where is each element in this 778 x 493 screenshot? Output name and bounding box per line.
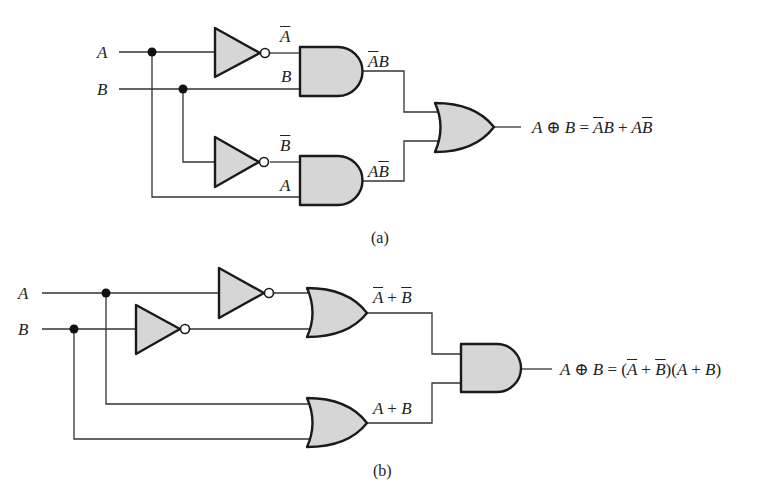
label-and2-output: AB xyxy=(368,163,389,180)
label-and1-b-input: B xyxy=(281,68,291,85)
inverter-bubble-b-b xyxy=(181,325,190,334)
inverter-bubble-a xyxy=(261,49,270,58)
or-gate-b-1 xyxy=(307,288,367,337)
wire-and1-out xyxy=(363,71,440,112)
output-expression-a: A ⊕ B = AB + AB xyxy=(532,119,652,136)
or-gate-a xyxy=(435,103,494,152)
and-gate-b xyxy=(461,344,521,392)
junction-dot-a xyxy=(148,48,157,57)
label-not-a: A xyxy=(280,28,290,45)
wire-b-or1-out xyxy=(367,313,461,354)
label-and2-a-input: A xyxy=(280,177,290,194)
label-input-a: A xyxy=(97,44,107,61)
not-gate-b-b xyxy=(136,305,180,354)
caption-a: (a) xyxy=(371,230,389,246)
not-gate-a xyxy=(215,28,260,77)
inverter-bubble-b-a xyxy=(265,289,274,298)
junction-dot-b-b xyxy=(70,325,79,334)
label-b-input-a: A xyxy=(18,285,28,302)
figure-b-circuit xyxy=(42,268,552,447)
wire-b-b-branch xyxy=(74,329,310,439)
and-gate-1 xyxy=(300,47,363,96)
output-expression-b: A ⊕ B = (A + B)(A + B) xyxy=(560,361,721,378)
not-gate-b xyxy=(215,137,259,187)
figure-a-circuit xyxy=(119,28,521,205)
junction-dot-b-a xyxy=(102,289,111,298)
label-input-b: B xyxy=(97,81,107,98)
label-or2-output: A + B xyxy=(373,400,412,417)
junction-dot-b xyxy=(179,85,188,94)
caption-b: (b) xyxy=(373,463,392,479)
or-gate-b-2 xyxy=(307,398,367,447)
inverter-bubble-b xyxy=(260,158,269,167)
label-or1-output: A + B xyxy=(373,289,412,306)
label-not-b: B xyxy=(280,137,290,154)
wire-b-branch xyxy=(183,89,215,162)
not-gate-b-a xyxy=(219,268,264,318)
label-and1-output: AB xyxy=(368,53,389,70)
label-b-input-b: B xyxy=(18,321,28,338)
xor-circuit-diagrams xyxy=(0,0,778,493)
and-gate-2 xyxy=(300,156,363,205)
